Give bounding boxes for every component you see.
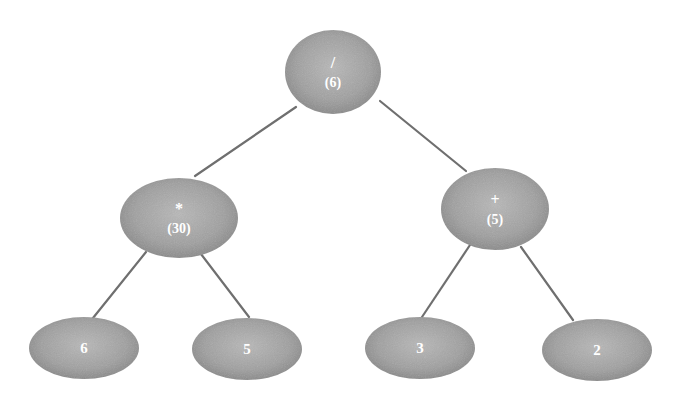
node-leaf-value: 5: [243, 341, 251, 357]
tree-node-leaf6: 6: [29, 317, 139, 379]
edge-add-leaf2: [521, 247, 573, 320]
node-leaf-value: 6: [80, 340, 88, 356]
node-value: (5): [487, 212, 504, 228]
nodes-layer: /(6)*(30)+(5)6532: [29, 30, 652, 381]
tree-node-root: /(6): [285, 30, 381, 114]
node-operator: *: [175, 200, 183, 217]
node-operator: +: [490, 191, 499, 208]
node-value: (6): [325, 75, 342, 91]
tree-node-leaf3: 3: [365, 317, 475, 379]
edge-root-add: [380, 101, 466, 171]
expression-tree-diagram: /(6)*(30)+(5)6532: [0, 0, 682, 401]
node-ellipse: [285, 30, 381, 114]
edge-mul-leaf5: [201, 254, 249, 317]
edge-add-leaf3: [422, 245, 470, 317]
tree-node-add: +(5): [441, 168, 549, 250]
node-leaf-value: 2: [593, 342, 601, 358]
tree-node-mul: *(30): [120, 178, 238, 258]
node-leaf-value: 3: [416, 340, 424, 356]
node-ellipse: [441, 168, 549, 250]
node-ellipse: [120, 178, 238, 258]
node-operator: /: [330, 54, 336, 71]
node-value: (30): [167, 221, 191, 237]
edge-mul-leaf6: [93, 252, 146, 318]
tree-node-leaf2: 2: [542, 319, 652, 381]
tree-node-leaf5: 5: [192, 318, 302, 380]
edge-root-mul: [195, 107, 296, 176]
